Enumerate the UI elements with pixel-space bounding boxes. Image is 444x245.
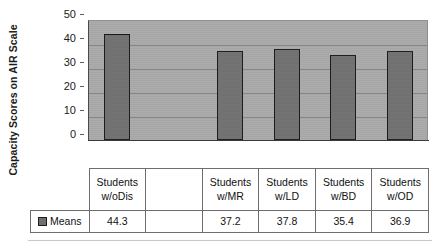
y-tick-mark-40 xyxy=(80,38,84,39)
y-tick-mark-0 xyxy=(80,134,84,135)
bar-slot-2 xyxy=(202,21,259,140)
x-axis-baseline xyxy=(88,140,429,141)
value-cell-1-empty xyxy=(146,211,203,233)
bar-students-wmr xyxy=(217,51,243,140)
category-cell-5: Students w/OD xyxy=(372,169,429,211)
value-cell-3: 37.8 xyxy=(259,211,316,233)
y-tick-label-30: 30 xyxy=(64,57,76,68)
category-line-0-2: w/oDis xyxy=(90,190,146,203)
bar-slot-0 xyxy=(89,21,146,140)
category-line-5-1: Students xyxy=(372,176,428,189)
bar-slot-1-empty xyxy=(146,21,203,140)
y-axis-tick-labels: 50 40 30 20 10 0 xyxy=(46,14,80,146)
bar-slot-5 xyxy=(372,21,429,140)
category-line-0-1: Students xyxy=(90,176,146,189)
y-tick-label-0: 0 xyxy=(70,129,76,140)
y-axis-title: Capacity Scores on AIR Scale xyxy=(0,0,26,200)
bar-students-wbd xyxy=(330,55,356,140)
category-cell-1-empty xyxy=(146,169,203,211)
table-row-means: Means 44.3 37.2 37.8 35.4 36.9 xyxy=(31,211,429,233)
category-cell-0: Students w/oDis xyxy=(89,169,146,211)
legend-cell: Means xyxy=(31,211,90,233)
plot-area xyxy=(88,20,428,140)
bar-slot-4 xyxy=(315,21,372,140)
category-line-4-1: Students xyxy=(316,176,372,189)
category-line-2-1: Students xyxy=(203,176,259,189)
y-tick-label-10: 10 xyxy=(64,105,76,116)
bar-students-wodis xyxy=(104,34,130,140)
y-tick-label-40: 40 xyxy=(64,33,76,44)
y-tick-label-20: 20 xyxy=(64,81,76,92)
category-cell-2: Students w/MR xyxy=(202,169,259,211)
category-cell-3: Students w/LD xyxy=(259,169,316,211)
y-tick-mark-20 xyxy=(80,86,84,87)
table-corner-cell xyxy=(31,169,90,211)
value-cell-0: 44.3 xyxy=(89,211,146,233)
y-tick-label-50: 50 xyxy=(64,9,76,20)
bar-chart-figure: Capacity Scores on AIR Scale 50 40 30 20… xyxy=(0,0,444,245)
value-cell-4: 35.4 xyxy=(315,211,372,233)
legend-series-label: Means xyxy=(50,215,82,227)
category-line-4-2: w/BD xyxy=(316,190,372,203)
y-tick-mark-50 xyxy=(80,14,84,15)
value-cell-2: 37.2 xyxy=(202,211,259,233)
bar-students-wod xyxy=(387,51,413,140)
category-line-3-1: Students xyxy=(259,176,315,189)
data-table: Students w/oDis Students w/MR Students w… xyxy=(30,168,429,233)
category-line-2-2: w/MR xyxy=(203,190,259,203)
category-line-3-2: w/LD xyxy=(259,190,315,203)
bar-students-wld xyxy=(274,49,300,140)
bar-slot-3 xyxy=(259,21,316,140)
category-line-5-2: w/OD xyxy=(372,190,428,203)
y-tick-mark-30 xyxy=(80,62,84,63)
bottom-divider xyxy=(28,240,432,241)
legend-swatch-icon xyxy=(38,217,47,226)
y-tick-mark-10 xyxy=(80,110,84,111)
value-cell-5: 36.9 xyxy=(372,211,429,233)
y-axis-title-text: Capacity Scores on AIR Scale xyxy=(7,24,19,175)
table-row-categories: Students w/oDis Students w/MR Students w… xyxy=(31,169,429,211)
category-cell-4: Students w/BD xyxy=(315,169,372,211)
